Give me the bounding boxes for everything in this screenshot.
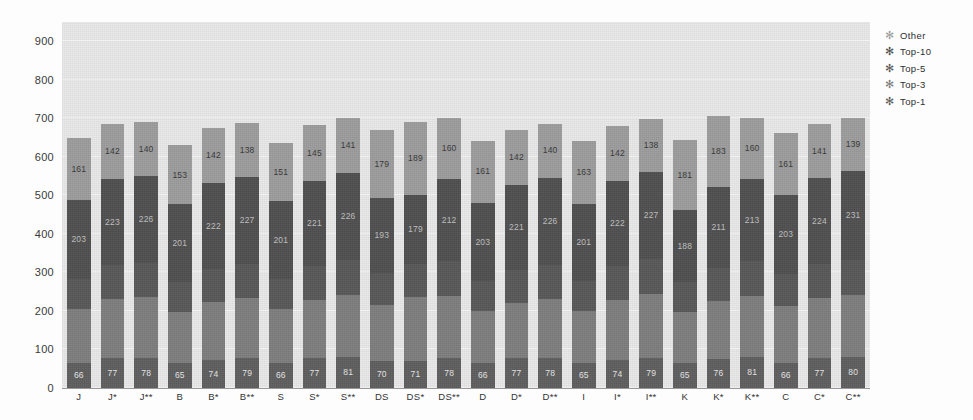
stacked-bar[interactable]: 1602138915981 [740,118,764,388]
bar-segment-top-5[interactable]: 91 [841,260,865,295]
bar-segment-top-5[interactable]: 91 [639,259,663,294]
bar-segment-top-5[interactable]: 87 [606,266,630,300]
bar-segment-top-1[interactable]: 66 [471,363,495,388]
bar-segment-top-3[interactable]: 157 [134,297,158,357]
bar-segment-top-10[interactable]: 227 [639,172,663,259]
bar-segment-other[interactable]: 142 [101,124,125,179]
bar-segment-other[interactable]: 138 [235,123,259,176]
bar-segment-top-5[interactable]: 86 [404,264,428,297]
bar-segment-top-1[interactable]: 65 [673,363,697,388]
bar-segment-top-10[interactable]: 212 [437,179,461,261]
bar-segment-top-3[interactable]: 133 [673,312,697,363]
legend-item-top-1[interactable]: ✻Top-1 [884,94,970,108]
bar-segment-top-1[interactable]: 79 [235,358,259,388]
bar-segment-top-5[interactable]: 78 [168,282,192,312]
bar-segment-top-3[interactable]: 164 [639,294,663,357]
bar-segment-top-1[interactable]: 71 [404,361,428,388]
bar-segment-top-1[interactable]: 78 [134,358,158,388]
bar-segment-top-5[interactable]: 92 [336,260,360,295]
bar-segment-other[interactable]: 142 [202,128,226,183]
bar-segment-top-10[interactable]: 201 [168,204,192,281]
bar-segment-other[interactable]: 140 [134,122,158,176]
bar-segment-top-5[interactable]: 88 [101,265,125,299]
bar-segment-top-3[interactable]: 150 [707,301,731,359]
bar-segment-other[interactable]: 145 [303,125,327,181]
stacked-bar[interactable]: 1612038013866 [67,138,91,388]
bar-segment-top-1[interactable]: 81 [336,357,360,388]
bar-segment-top-10[interactable]: 213 [740,179,764,261]
bar-segment-top-3[interactable]: 156 [808,298,832,358]
bar-segment-top-5[interactable]: 89 [235,264,259,298]
bar-segment-top-5[interactable]: 88 [808,264,832,298]
bar-segment-top-5[interactable]: 80 [67,279,91,310]
stacked-bar[interactable]: 1412248815677 [808,124,832,388]
bar-segment-other[interactable]: 141 [808,124,832,178]
bar-segment-top-1[interactable]: 77 [505,358,529,388]
stacked-bar[interactable]: 1891798616571 [404,122,428,388]
bar-segment-other[interactable]: 138 [639,119,663,172]
bar-segment-other[interactable]: 179 [370,130,394,199]
bar-segment-top-1[interactable]: 77 [101,358,125,388]
bar-segment-top-3[interactable]: 150 [202,302,226,360]
bar-segment-top-10[interactable]: 211 [707,187,731,268]
bar-segment-other[interactable]: 153 [168,145,192,204]
bar-segment-top-3[interactable]: 160 [336,295,360,357]
legend-item-top-5[interactable]: ✻Top-5 [884,61,970,75]
bar-segment-top-10[interactable]: 221 [303,181,327,266]
bar-segment-top-10[interactable]: 227 [235,177,259,264]
bar-segment-top-3[interactable]: 138 [269,309,293,362]
stacked-bar[interactable]: 1422228715574 [606,126,630,388]
stacked-bar[interactable]: 1612037813466 [471,141,495,388]
bar-segment-other[interactable]: 142 [606,126,630,181]
legend-item-top-3[interactable]: ✻Top-3 [884,78,970,92]
bar-segment-top-10[interactable]: 226 [538,178,562,265]
bar-segment-top-1[interactable]: 74 [606,360,630,389]
stacked-bar[interactable]: 1402269015778 [134,122,158,388]
bar-segment-top-3[interactable]: 147 [774,306,798,363]
bar-segment-other[interactable]: 139 [841,118,865,172]
bar-segment-top-1[interactable]: 81 [740,357,764,388]
stacked-bar[interactable]: 1422228615074 [202,128,226,388]
bar-segment-top-3[interactable]: 154 [538,299,562,358]
bar-segment-top-1[interactable]: 76 [707,359,731,388]
bar-segment-top-3[interactable]: 133 [168,312,192,363]
bar-segment-top-1[interactable]: 65 [572,363,596,388]
bar-segment-other[interactable]: 181 [673,140,697,210]
bar-segment-top-5[interactable]: 89 [740,261,764,295]
bar-segment-top-3[interactable]: 155 [101,299,125,359]
bar-segment-top-1[interactable]: 78 [538,358,562,388]
bar-segment-other[interactable]: 141 [336,118,360,172]
bar-segment-top-1[interactable]: 77 [303,358,327,388]
stacked-bar[interactable]: 1422238815577 [101,124,125,388]
bar-segment-top-1[interactable]: 77 [808,358,832,388]
bar-segment-other[interactable]: 151 [269,143,293,201]
stacked-bar[interactable]: 1832118515076 [707,116,731,388]
bar-segment-top-1[interactable]: 66 [774,363,798,388]
bar-segment-top-3[interactable]: 165 [404,297,428,361]
bar-segment-top-5[interactable]: 84 [774,274,798,306]
bar-segment-top-5[interactable]: 88 [538,265,562,299]
bar-segment-top-10[interactable]: 201 [269,201,293,278]
stacked-bar[interactable]: 1791938414570 [370,130,394,388]
bar-segment-top-5[interactable]: 78 [471,281,495,311]
bar-segment-top-3[interactable]: 135 [572,311,596,363]
bar-segment-top-1[interactable]: 66 [269,363,293,388]
bar-segment-top-1[interactable]: 78 [437,358,461,388]
bar-segment-other[interactable]: 160 [740,118,764,180]
bar-segment-other[interactable]: 163 [572,141,596,204]
stacked-bar[interactable]: 1422218614477 [505,130,529,388]
bar-segment-top-1[interactable]: 66 [67,363,91,388]
bar-segment-top-1[interactable]: 74 [202,360,226,389]
bar-segment-top-5[interactable]: 90 [134,263,158,298]
bar-segment-top-3[interactable]: 161 [841,295,865,357]
bar-segment-top-10[interactable]: 201 [572,204,596,281]
bar-segment-other[interactable]: 160 [437,118,461,180]
stacked-bar[interactable]: 1452218815277 [303,125,327,388]
bar-segment-top-5[interactable]: 88 [303,266,327,300]
bar-segment-top-5[interactable]: 80 [269,279,293,310]
bar-segment-top-1[interactable]: 80 [841,357,865,388]
legend-item-top-10[interactable]: ✻Top-10 [884,45,970,59]
bar-segment-other[interactable]: 161 [774,133,798,195]
bar-segment-top-10[interactable]: 226 [134,176,158,263]
bar-segment-other[interactable]: 161 [471,141,495,203]
